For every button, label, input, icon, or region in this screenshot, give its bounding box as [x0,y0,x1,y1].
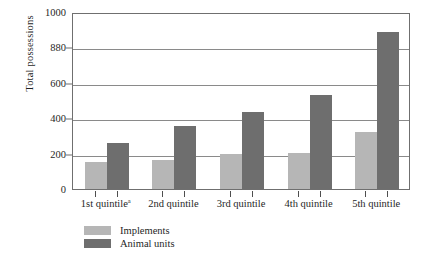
bar-group [73,14,141,189]
y-axis-title: Total possessions [24,0,35,129]
x-axis-tick-mark [184,191,185,197]
x-axis-tick-mark [387,191,388,197]
chart-legend: ImplementsAnimal units [84,224,175,250]
legend-label: Animal units [120,238,175,249]
x-axis-tick-mark [298,191,299,197]
x-axis-tick-mark [365,191,366,197]
y-axis-tick-label: 600 [6,79,66,90]
bar-animal-units[interactable] [310,95,332,189]
plot-inner [73,14,409,189]
bar-group [343,14,411,189]
bar-implements[interactable] [288,153,310,189]
x-axis-tick-mark [95,191,96,197]
x-axis-tick-mark [162,191,163,197]
legend-swatch [84,226,111,235]
bar-implements[interactable] [355,132,377,189]
legend-item[interactable]: Implements [84,224,175,237]
bar-animal-units[interactable] [242,112,264,189]
x-axis-tick-mark [117,191,118,197]
bar-animal-units[interactable] [107,143,129,189]
y-axis-tick-label: 880 [6,43,66,54]
y-axis-tick-label: 1000 [6,8,66,19]
y-axis-tick-label: 200 [6,149,66,160]
plot-area [72,13,410,190]
bar-implements[interactable] [85,162,107,189]
bar-implements[interactable] [220,154,242,189]
bar-implements[interactable] [152,160,174,189]
bar-animal-units[interactable] [377,32,399,189]
y-axis-tick-label: 400 [6,114,66,125]
legend-item[interactable]: Animal units [84,237,175,250]
x-axis-tick-mark [252,191,253,197]
legend-swatch [84,239,111,248]
legend-label: Implements [120,225,170,236]
bar-chart-figure: Total possessions 02004006008801000 1st … [0,0,422,258]
x-axis-tick-label: 5th quintile [316,198,422,209]
x-axis-tick-mark [230,191,231,197]
bar-animal-units[interactable] [174,126,196,189]
bar-group [141,14,209,189]
x-axis-tick-mark [320,191,321,197]
bar-group [208,14,276,189]
y-axis-tick-label: 0 [6,185,66,196]
bar-group [276,14,344,189]
